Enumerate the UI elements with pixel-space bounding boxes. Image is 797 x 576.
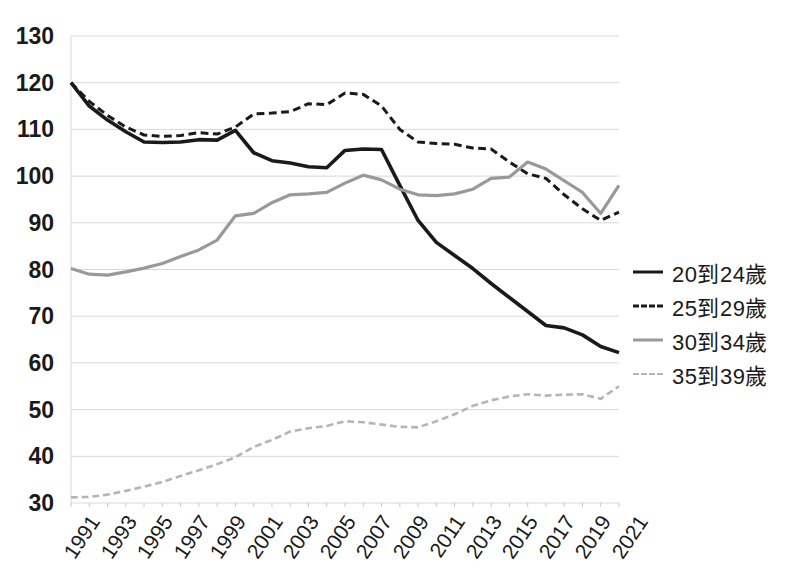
y-axis-tick-label: 70 xyxy=(28,303,54,330)
y-axis-tick-label: 80 xyxy=(28,256,54,283)
series-line-3 xyxy=(71,162,619,275)
x-axis-tick-label: 1997 xyxy=(168,511,214,563)
y-axis-tick-label: 60 xyxy=(28,349,54,376)
x-axis-tick-label: 2021 xyxy=(607,511,653,563)
x-axis-tick-label: 2017 xyxy=(534,511,580,563)
y-axis-tick-label: 100 xyxy=(16,163,54,190)
x-axis-tick-label: 2009 xyxy=(388,511,434,563)
dashed-light-gray-line-icon xyxy=(633,368,663,380)
solid-dark-line-icon xyxy=(633,266,663,278)
legend-item[interactable]: 35到39歲 xyxy=(633,357,797,391)
y-axis-tick-label: 120 xyxy=(16,69,54,96)
x-axis-tick-labels: 1991199319951997199920012003200520072009… xyxy=(71,503,631,576)
y-axis-tick-labels: 13012011010090807060504030 xyxy=(0,36,62,503)
legend-label: 25到29歲 xyxy=(672,290,768,322)
x-axis-tick-label: 1991 xyxy=(59,511,105,563)
x-axis-tick-label: 2011 xyxy=(425,511,470,562)
y-axis-tick-label: 110 xyxy=(17,116,54,143)
y-axis-tick-label: 50 xyxy=(28,396,54,423)
series-line-1 xyxy=(71,83,619,353)
legend-item[interactable]: 25到29歲 xyxy=(633,289,797,323)
legend-label: 30到34歲 xyxy=(672,324,768,356)
series-line-4 xyxy=(71,386,619,497)
y-axis-tick-label: 30 xyxy=(28,490,54,517)
legend-item[interactable]: 30到34歲 xyxy=(633,323,797,357)
legend-label: 35到39歲 xyxy=(672,358,768,390)
y-axis-tick-label: 90 xyxy=(28,209,54,236)
plot-area xyxy=(71,36,619,503)
line-chart: 13012011010090807060504030 1991199319951… xyxy=(0,0,797,576)
chart-legend: 20到24歲25到29歲30到34歲35到39歲 xyxy=(633,255,797,391)
y-axis-tick-label: 130 xyxy=(16,23,54,50)
solid-gray-line-icon xyxy=(633,334,663,346)
x-axis-tick-label: 2019 xyxy=(570,511,616,563)
legend-item[interactable]: 20到24歲 xyxy=(633,255,797,289)
x-axis-tick-label: 2001 xyxy=(242,511,288,563)
x-axis-tick-label: 2007 xyxy=(351,511,397,563)
series-lines xyxy=(71,36,619,503)
x-axis-tick-label: 1995 xyxy=(132,511,178,563)
legend-label: 20到24歲 xyxy=(672,256,768,288)
x-axis-tick-label: 2013 xyxy=(461,511,507,563)
x-axis-tick-label: 1999 xyxy=(205,511,251,563)
x-axis-tick-label: 2015 xyxy=(497,511,543,563)
x-axis-tick-label: 2005 xyxy=(315,511,361,563)
x-axis-tick-label: 1993 xyxy=(95,511,141,563)
y-axis-tick-label: 40 xyxy=(28,443,54,470)
x-axis-tick-label: 2003 xyxy=(278,511,324,563)
dashed-dark-line-icon xyxy=(633,300,663,312)
